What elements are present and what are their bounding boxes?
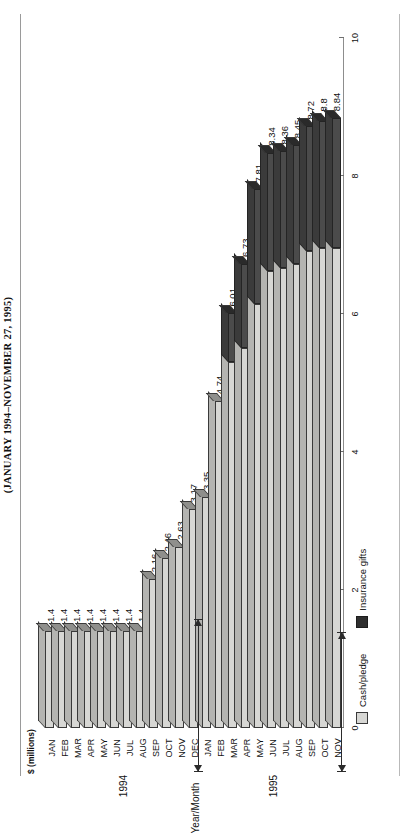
bar-series-group: 1.41.41.41.41.41.41.41.42.162.462.633.17… bbox=[43, 38, 343, 728]
bar-top-face bbox=[299, 117, 306, 251]
month-label: AUG bbox=[294, 738, 304, 758]
bracket-arrow bbox=[338, 765, 346, 772]
bar-top-face bbox=[273, 141, 280, 268]
bar-group bbox=[332, 38, 341, 728]
bar-top-face bbox=[234, 254, 241, 349]
bar-segment-insurance bbox=[332, 118, 341, 248]
bracket-arrow bbox=[194, 765, 202, 772]
bar-top-face bbox=[260, 143, 267, 271]
bar-top-face bbox=[286, 135, 293, 263]
bar-top-face bbox=[182, 500, 189, 728]
bar-top-face bbox=[64, 622, 71, 728]
month-label: MAR bbox=[73, 738, 83, 758]
top-rule bbox=[20, 14, 21, 776]
month-label: NOV bbox=[177, 738, 187, 758]
bracket-arrow bbox=[194, 619, 202, 626]
month-label: FEB bbox=[60, 739, 70, 757]
bracket-arrow bbox=[338, 632, 346, 639]
bar-segment-cash bbox=[332, 248, 341, 728]
bar-value-label: 8.84 bbox=[331, 93, 342, 112]
value-axis-line bbox=[343, 38, 344, 728]
bar-top-face bbox=[273, 259, 280, 728]
bar-top-face bbox=[312, 239, 319, 728]
legend: Cash/pledgeInsurance gifts bbox=[356, 549, 368, 724]
bar-top-face bbox=[260, 261, 267, 728]
bar-top-face bbox=[299, 241, 306, 728]
x-axis-title: Year/Month bbox=[190, 783, 201, 833]
month-label: APR bbox=[86, 739, 96, 758]
month-label: SEP bbox=[151, 739, 161, 757]
bar-top-face bbox=[168, 537, 175, 728]
bar-top-face bbox=[286, 254, 293, 728]
y-axis-title: $ (millions) bbox=[26, 729, 36, 774]
year-bracket bbox=[341, 632, 342, 772]
month-label: OCT bbox=[164, 739, 174, 758]
month-label: MAY bbox=[99, 739, 109, 758]
bar-top-face bbox=[208, 391, 215, 728]
month-label: JUN bbox=[112, 739, 122, 757]
month-label: JUL bbox=[281, 740, 291, 756]
month-label: MAR bbox=[229, 738, 239, 758]
legend-item: Cash/pledge bbox=[356, 654, 368, 724]
month-label: MAY bbox=[255, 739, 265, 758]
legend-label: Cash/pledge bbox=[357, 654, 368, 707]
year-label: 1995 bbox=[268, 775, 279, 797]
bar-top-face bbox=[103, 622, 110, 728]
bar-top-face bbox=[129, 622, 136, 728]
bar-top-face bbox=[155, 548, 162, 728]
axis-tick-label: 4 bbox=[350, 439, 360, 465]
legend-label: Insurance gifts bbox=[357, 549, 368, 611]
bar-top-face bbox=[38, 622, 45, 728]
year-label: 1994 bbox=[118, 775, 129, 797]
bar-top-face bbox=[116, 622, 123, 728]
legend-swatch bbox=[356, 616, 368, 628]
axis-tick-label: 8 bbox=[350, 163, 360, 189]
figure-caption: (JANUARY 1994–NOVEMBER 27, 1995) bbox=[2, 0, 13, 790]
bar-top-face bbox=[77, 622, 84, 728]
plot-area: 0246810 1.41.41.41.41.41.41.41.42.162.46… bbox=[44, 38, 344, 728]
month-label: JUL bbox=[125, 740, 135, 756]
bar-top-face bbox=[51, 622, 58, 728]
legend-item: Insurance gifts bbox=[356, 549, 368, 628]
axis-tick-label: 6 bbox=[350, 301, 360, 327]
month-label: JUN bbox=[268, 739, 278, 757]
axis-tick-label: 10 bbox=[350, 25, 360, 51]
month-label: SEP bbox=[307, 739, 317, 757]
bar-top-face bbox=[312, 111, 319, 248]
month-label: JAN bbox=[47, 739, 57, 756]
bottom-rule bbox=[399, 14, 400, 776]
bar-top-face bbox=[325, 238, 332, 728]
month-label: FEB bbox=[216, 739, 226, 757]
bar-top-face bbox=[234, 339, 241, 728]
month-label: APR bbox=[242, 739, 252, 758]
bar-top-face bbox=[247, 294, 254, 728]
bar-top-face bbox=[142, 569, 149, 728]
bar-top-face bbox=[247, 179, 254, 303]
bar-top-face bbox=[325, 108, 332, 247]
bar-top-face bbox=[221, 353, 228, 728]
year-bracket bbox=[198, 619, 199, 772]
bar-top-face bbox=[90, 622, 97, 728]
month-label: AUG bbox=[138, 738, 148, 758]
month-label: OCT bbox=[320, 739, 330, 758]
legend-swatch bbox=[356, 712, 368, 724]
month-label: JAN bbox=[203, 739, 213, 756]
